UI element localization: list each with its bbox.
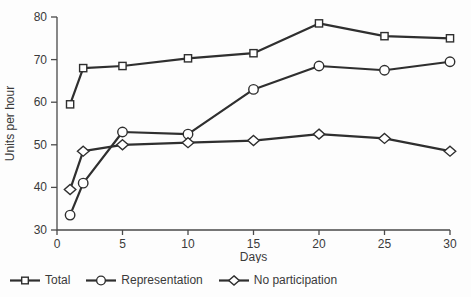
svg-text:30: 30 bbox=[34, 223, 48, 237]
svg-text:25: 25 bbox=[378, 237, 392, 251]
line-chart-figure: 304050607080051015202530DaysUnits per ho… bbox=[0, 0, 471, 297]
chart-legend: Total Representation No participation bbox=[10, 271, 337, 289]
square-marker-icon bbox=[10, 274, 40, 287]
legend-label-total: Total bbox=[45, 273, 70, 287]
circle-marker-icon bbox=[86, 274, 116, 287]
svg-text:0: 0 bbox=[54, 237, 61, 251]
svg-text:50: 50 bbox=[34, 138, 48, 152]
svg-text:80: 80 bbox=[34, 10, 48, 24]
legend-item-total: Total bbox=[10, 273, 70, 287]
legend-label-no-participation: No participation bbox=[254, 273, 337, 287]
diamond-marker-icon bbox=[219, 274, 249, 287]
svg-text:5: 5 bbox=[119, 237, 126, 251]
svg-text:Days: Days bbox=[240, 250, 267, 263]
chart-plot-area: 304050607080051015202530DaysUnits per ho… bbox=[0, 0, 471, 263]
legend-item-representation: Representation bbox=[86, 273, 202, 287]
svg-text:Units per hour: Units per hour bbox=[3, 86, 17, 161]
svg-text:40: 40 bbox=[34, 180, 48, 194]
svg-text:60: 60 bbox=[34, 95, 48, 109]
legend-label-representation: Representation bbox=[121, 273, 202, 287]
svg-text:20: 20 bbox=[312, 237, 326, 251]
legend-item-no-participation: No participation bbox=[219, 273, 337, 287]
svg-text:10: 10 bbox=[181, 237, 195, 251]
svg-text:30: 30 bbox=[443, 237, 457, 251]
svg-text:70: 70 bbox=[34, 53, 48, 67]
svg-text:15: 15 bbox=[247, 237, 261, 251]
